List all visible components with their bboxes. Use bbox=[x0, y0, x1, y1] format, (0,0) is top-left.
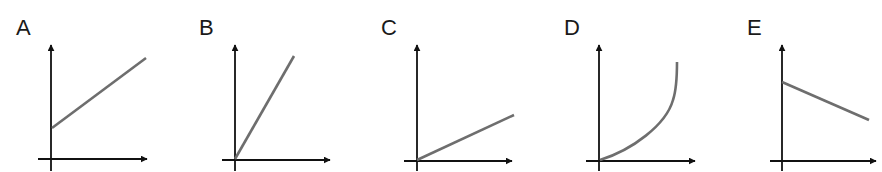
line-c bbox=[417, 115, 514, 160]
line-e bbox=[782, 82, 869, 120]
graph-b bbox=[222, 45, 330, 171]
graph-c bbox=[404, 45, 514, 171]
line-a bbox=[52, 58, 146, 128]
line-b bbox=[235, 56, 294, 159]
graph-a bbox=[38, 45, 147, 171]
graph-d bbox=[586, 45, 695, 171]
graph-e bbox=[770, 45, 876, 171]
curve-d bbox=[600, 62, 677, 160]
graphs-canvas bbox=[0, 0, 882, 172]
